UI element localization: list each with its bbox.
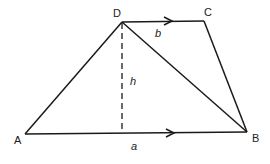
label-b: b bbox=[155, 27, 161, 39]
edge-dc bbox=[122, 21, 204, 22]
label-h: h bbox=[130, 75, 136, 87]
vertex-label-a: A bbox=[14, 134, 22, 146]
edge-ab bbox=[25, 132, 247, 134]
edge-cb bbox=[204, 21, 247, 132]
edge-ad bbox=[25, 22, 122, 134]
label-a: a bbox=[131, 140, 137, 152]
vertex-label-c: C bbox=[204, 6, 212, 18]
diagram-canvas: D C A B b h a bbox=[0, 0, 270, 164]
diagonal-db bbox=[122, 22, 247, 132]
trapezium-diagram: D C A B b h a bbox=[0, 0, 270, 164]
vertex-label-b: B bbox=[252, 132, 259, 144]
vertex-label-d: D bbox=[113, 7, 121, 19]
